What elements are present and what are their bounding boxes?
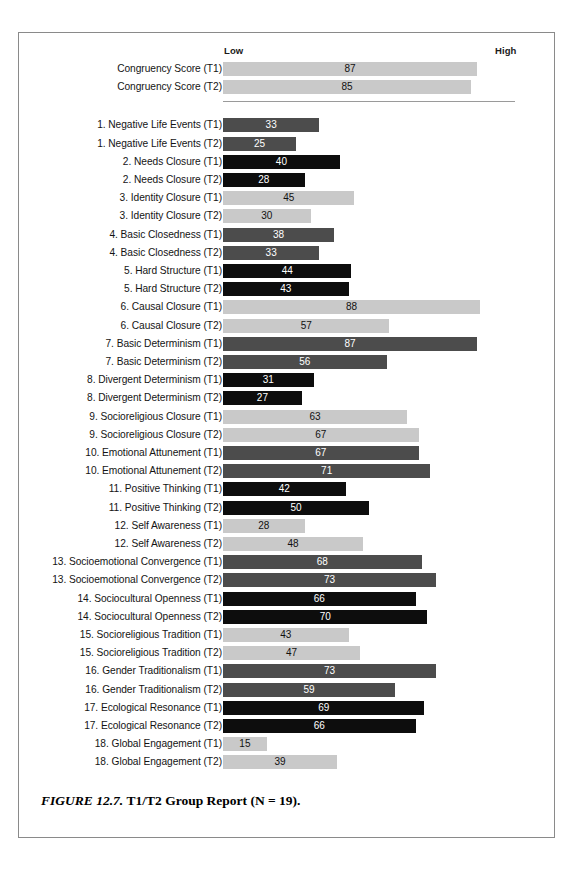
bar-value-label: 28 xyxy=(258,519,269,533)
bar-value-label: 33 xyxy=(266,246,277,260)
bar-row: 3. Identity Closure (T1)45 xyxy=(19,190,554,208)
bar-value-label: 27 xyxy=(257,391,268,405)
bar-row-label: 5. Hard Structure (T1) xyxy=(22,263,222,278)
bar-row-label: Congruency Score (T1) xyxy=(22,61,222,76)
bar-value-label: 70 xyxy=(320,610,331,624)
bar-track: 73 xyxy=(223,573,515,587)
bar-value-label: 45 xyxy=(283,191,294,205)
bar-row: 3. Identity Closure (T2)30 xyxy=(19,208,554,226)
bar-row: 15. Socioreligious Tradition (T1)43 xyxy=(19,627,554,645)
bar-row-label: 4. Basic Closedness (T2) xyxy=(22,245,222,260)
bar-value-label: 87 xyxy=(344,62,355,76)
bar-value-label: 57 xyxy=(301,319,312,333)
bar-row-label: 9. Socioreligious Closure (T1) xyxy=(22,409,222,424)
bar-row: 11. Positive Thinking (T1)42 xyxy=(19,481,554,499)
bar-row: Congruency Score (T1)87 xyxy=(19,61,554,79)
bar-row: 2. Needs Closure (T2)28 xyxy=(19,172,554,190)
bar-value-label: 88 xyxy=(346,300,357,314)
bar-value-label: 85 xyxy=(342,80,353,94)
bar-value-label: 15 xyxy=(239,737,250,751)
bar-row: 17. Ecological Resonance (T1)69 xyxy=(19,700,554,718)
bar-row-label: 9. Socioreligious Closure (T2) xyxy=(22,427,222,442)
bar-track: 43 xyxy=(223,282,515,296)
bar-row: 5. Hard Structure (T1)44 xyxy=(19,263,554,281)
bar-value-label: 42 xyxy=(279,482,290,496)
bar-value-label: 43 xyxy=(280,282,291,296)
bar-value-label: 59 xyxy=(304,683,315,697)
bar-row: 1. Negative Life Events (T1)33 xyxy=(19,117,554,135)
bar-value-label: 68 xyxy=(317,555,328,569)
bar-row: 13. Socioemotional Convergence (T2)73 xyxy=(19,572,554,590)
bar-track: 68 xyxy=(223,555,515,569)
bar-value-label: 73 xyxy=(324,664,335,678)
bar-row-label: 18. Global Engagement (T1) xyxy=(22,736,222,751)
section-divider xyxy=(223,101,515,102)
bar-row: 18. Global Engagement (T1)15 xyxy=(19,736,554,754)
bar-track: 71 xyxy=(223,464,515,478)
figure-frame: Low High Congruency Score (T1)87Congruen… xyxy=(18,32,555,838)
bar-row-label: 13. Socioemotional Convergence (T1) xyxy=(22,554,222,569)
bar-row: 16. Gender Traditionalism (T1)73 xyxy=(19,663,554,681)
bar-track: 25 xyxy=(223,137,515,151)
bar-row-label: 12. Self Awareness (T2) xyxy=(22,536,222,551)
bar-value-label: 43 xyxy=(280,628,291,642)
bar-track: 56 xyxy=(223,355,515,369)
bar-row: 6. Causal Closure (T2)57 xyxy=(19,318,554,336)
bar-track: 47 xyxy=(223,646,515,660)
bar-row-label: 7. Basic Determinism (T1) xyxy=(22,336,222,351)
bar-row-label: 6. Causal Closure (T1) xyxy=(22,299,222,314)
bar-row: 11. Positive Thinking (T2)50 xyxy=(19,500,554,518)
bar-row-label: 14. Sociocultural Openness (T2) xyxy=(22,609,222,624)
bar-track: 33 xyxy=(223,246,515,260)
bar-value-label: 73 xyxy=(324,573,335,587)
bar-track: 40 xyxy=(223,155,515,169)
bar-value-label: 63 xyxy=(309,410,320,424)
bar-row-label: 2. Needs Closure (T2) xyxy=(22,172,222,187)
figure-caption-label: FIGURE 12.7. xyxy=(41,793,123,808)
bar-row-label: 10. Emotional Attunement (T2) xyxy=(22,463,222,478)
bar-value-label: 40 xyxy=(276,155,287,169)
bar-value-label: 25 xyxy=(254,137,265,151)
bar-row-label: 5. Hard Structure (T2) xyxy=(22,281,222,296)
bar-value-label: 33 xyxy=(266,118,277,132)
bar-row: 1. Negative Life Events (T2)25 xyxy=(19,136,554,154)
bar-row-label: 8. Divergent Determinism (T1) xyxy=(22,372,222,387)
bar-track: 39 xyxy=(223,755,515,769)
bar-row-label: 18. Global Engagement (T2) xyxy=(22,754,222,769)
bar-row-label: 14. Sociocultural Openness (T1) xyxy=(22,591,222,606)
bar-row-label: 11. Positive Thinking (T1) xyxy=(22,481,222,496)
bar-row: 2. Needs Closure (T1)40 xyxy=(19,154,554,172)
bar-row-label: 1. Negative Life Events (T2) xyxy=(22,136,222,151)
bar-track: 15 xyxy=(223,737,515,751)
bar-row: 18. Global Engagement (T2)39 xyxy=(19,754,554,772)
bar-row: 9. Socioreligious Closure (T2)67 xyxy=(19,427,554,445)
bar-value-label: 66 xyxy=(314,719,325,733)
bar-row-label: 15. Socioreligious Tradition (T2) xyxy=(22,645,222,660)
bar-row-label: 12. Self Awareness (T1) xyxy=(22,518,222,533)
bar-value-label: 71 xyxy=(321,464,332,478)
bar-row: 4. Basic Closedness (T1)38 xyxy=(19,227,554,245)
bar-row: 17. Ecological Resonance (T2)66 xyxy=(19,718,554,736)
bar-value-label: 67 xyxy=(315,428,326,442)
bar-row-label: 16. Gender Traditionalism (T1) xyxy=(22,663,222,678)
axis-label-low: Low xyxy=(224,45,243,56)
bar-track: 67 xyxy=(223,428,515,442)
bar-row-label: Congruency Score (T2) xyxy=(22,79,222,94)
bar-track: 57 xyxy=(223,319,515,333)
bar-row: 12. Self Awareness (T2)48 xyxy=(19,536,554,554)
figure-caption: FIGURE 12.7. T1/T2 Group Report (N = 19)… xyxy=(41,793,300,809)
bar-row: 10. Emotional Attunement (T1)67 xyxy=(19,445,554,463)
bar-value-label: 69 xyxy=(318,701,329,715)
bar-track: 88 xyxy=(223,300,515,314)
bar-track: 66 xyxy=(223,719,515,733)
bar-row-label: 6. Causal Closure (T2) xyxy=(22,318,222,333)
bar-track: 30 xyxy=(223,209,515,223)
bar-row-label: 3. Identity Closure (T2) xyxy=(22,208,222,223)
figure-caption-title: T1/T2 Group Report (N = 19). xyxy=(127,793,301,808)
bar-value-label: 48 xyxy=(288,537,299,551)
bar-value-label: 38 xyxy=(273,228,284,242)
bar-chart: Low High Congruency Score (T1)87Congruen… xyxy=(19,33,554,837)
bar-track: 50 xyxy=(223,501,515,515)
bar-track: 43 xyxy=(223,628,515,642)
bar-row-label: 17. Ecological Resonance (T2) xyxy=(22,718,222,733)
